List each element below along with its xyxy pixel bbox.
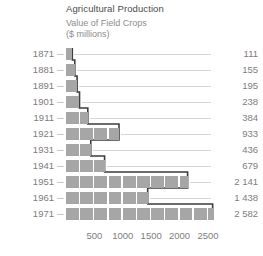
year-leader-line [57,214,64,215]
bar-segment [180,208,193,220]
chart-row: 1871111 [0,46,263,62]
year-label: 1971 [16,208,54,220]
value-bar [66,192,148,204]
bar-segment [123,176,136,188]
x-tick-label: 1000 [112,230,133,241]
bar-segment [109,192,122,204]
value-leader-line [77,70,211,71]
year-leader-line [57,198,64,199]
bar-segment [94,160,104,172]
value-label: 238 [214,96,258,108]
value-leader-line [121,134,211,135]
x-tick-label: 500 [86,230,102,241]
chart-subtitle-line1: Value of Field Crops [66,18,256,29]
year-leader-line [57,134,64,135]
value-bar [66,144,91,156]
chart-title-block: Agricultural Production Value of Field C… [66,3,256,40]
bar-segment [66,64,75,76]
bar-segment [94,208,107,220]
chart-row: 19512 141 [0,174,263,190]
year-label: 1931 [16,144,54,156]
year-leader-line [57,102,64,103]
bar-segment [66,80,77,92]
chart-figure: Agricultural Production Value of Field C… [0,0,263,256]
bar-segment [194,208,207,220]
chart-row: 1901238 [0,94,263,110]
year-label: 1891 [16,80,54,92]
x-tick-label: 2500 [197,230,218,241]
value-bar [66,160,105,172]
bar-segment [151,208,164,220]
value-bar [66,48,72,60]
year-leader-line [57,54,64,55]
value-bar [66,208,213,220]
value-label: 195 [214,80,258,92]
bar-segment [94,176,107,188]
chart-title: Agricultural Production [66,3,256,15]
chart-row: 19712 582 [0,206,263,222]
chart-row: 1891195 [0,78,263,94]
value-label: 436 [214,144,258,156]
value-leader-line [79,86,211,87]
x-tick-label: 2000 [169,230,190,241]
value-bar [66,80,77,92]
bar-segment [165,208,178,220]
bar-segment [123,208,136,220]
value-label: 155 [214,64,258,76]
value-bar [66,128,119,140]
chart-row: 1921933 [0,126,263,142]
bar-segment [66,112,79,124]
value-bar [66,112,88,124]
year-leader-line [57,118,64,119]
year-label: 1941 [16,160,54,172]
bar-segment [165,176,178,188]
bar-segment [66,128,79,140]
value-leader-line [90,118,211,119]
x-tick-label: 1500 [141,230,162,241]
value-bar [66,176,188,188]
bar-segment [109,176,122,188]
year-label: 1881 [16,64,54,76]
value-leader-line [74,54,211,55]
chart-row: 1911384 [0,110,263,126]
chart-plot-area: 1871111188115518911951901238191138419219… [0,46,263,232]
bar-segment [123,192,136,204]
value-leader-line [93,150,211,151]
bar-segment [80,144,91,156]
value-leader-line [190,182,211,183]
year-label: 1951 [16,176,54,188]
bar-segment [180,176,188,188]
year-label: 1901 [16,96,54,108]
year-leader-line [57,166,64,167]
year-leader-line [57,86,64,87]
year-leader-line [57,70,64,71]
chart-row: 19611 438 [0,190,263,206]
chart-row: 1881155 [0,62,263,78]
bar-segment [94,192,107,204]
value-bar [66,96,80,108]
year-label: 1911 [16,112,54,124]
chart-row: 1941679 [0,158,263,174]
bar-segment [137,176,150,188]
year-label: 1921 [16,128,54,140]
bar-segment [66,176,79,188]
bar-segment [80,192,93,204]
bar-segment [109,128,119,140]
value-bar [66,64,75,76]
bar-segment [66,208,79,220]
bar-segment [80,128,93,140]
bar-segment [137,208,150,220]
chart-subtitle-line2: ($ millions) [66,29,256,40]
year-label: 1871 [16,48,54,60]
value-leader-line [82,102,211,103]
year-leader-line [57,182,64,183]
bar-segment [66,160,79,172]
value-label: 384 [214,112,258,124]
value-leader-line [150,198,211,199]
bar-segment [66,192,79,204]
bar-segment [66,48,72,60]
value-label: 1 438 [214,192,258,204]
value-leader-line [107,166,211,167]
bar-segment [80,208,93,220]
bar-segment [94,128,107,140]
